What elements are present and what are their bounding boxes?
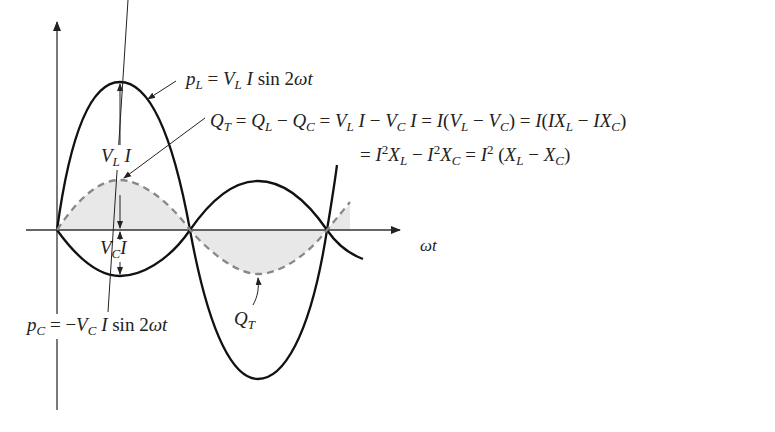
power-diagram [0,0,775,432]
pL-equation: pL = VL I sin 2ωt [186,68,313,93]
qt-equation-line2: = I2XL − I2XC = I2 (XL − XC) [360,142,570,169]
qt-equation-line1: QT = QL − QC = VL I − VC I = I(VL − VC) … [210,110,626,135]
qt-bottom-leader [253,278,258,305]
x-axis-label: ωt [420,236,437,256]
pC-equation: pC = −VC I sin 2ωt [27,314,167,339]
vci-label: VCI [100,237,127,262]
vli-label: VL I [100,145,132,170]
pL-leader [148,81,176,99]
qt-leader [124,118,205,178]
qt-fill-negative [190,230,327,274]
qt-label: QT [234,308,255,333]
qt-fill-positive [57,180,190,230]
